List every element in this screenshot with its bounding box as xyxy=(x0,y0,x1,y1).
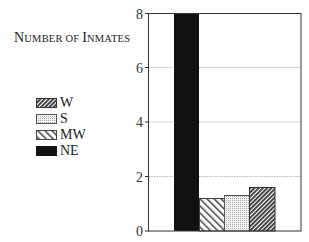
y-tick-4: 4 xyxy=(136,115,143,130)
bar-mw xyxy=(200,199,225,232)
y-tick-2: 2 xyxy=(136,170,143,185)
bar-w xyxy=(250,188,276,232)
bar-s xyxy=(225,196,250,232)
bar-ne xyxy=(174,13,199,231)
y-tick-8: 8 xyxy=(136,7,143,22)
y-tick-6: 6 xyxy=(136,61,143,76)
bar-chart: 0 2 4 6 8 xyxy=(0,0,309,242)
y-tick-0: 0 xyxy=(136,224,143,239)
gridlines xyxy=(149,68,301,177)
